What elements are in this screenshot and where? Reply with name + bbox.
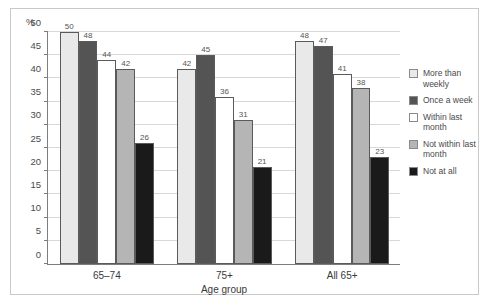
chart-legend: More than weeklyOnce a weekWithin last m… (409, 68, 481, 182)
bar[interactable]: 23 (370, 157, 389, 264)
bar-value-label: 36 (220, 88, 229, 96)
bar-value-label: 38 (357, 79, 366, 87)
bar-value-label: 48 (84, 32, 93, 40)
y-tick-label: 0 (36, 250, 41, 260)
y-tick-label: 20 (30, 157, 41, 167)
bar-slot: 45 (196, 32, 215, 264)
y-tick-label: 45 (30, 41, 41, 51)
bar-slot: 44 (97, 32, 116, 264)
bar-value-label: 50 (65, 23, 74, 31)
bar[interactable]: 48 (79, 41, 98, 264)
x-tick-label: 75+ (216, 271, 233, 281)
bar-value-label: 44 (102, 51, 111, 59)
bar[interactable]: 42 (116, 69, 135, 264)
legend-swatch (409, 113, 418, 122)
legend-swatch (409, 96, 418, 105)
bar-slot: 48 (79, 32, 98, 264)
bar-slot: 42 (116, 32, 135, 264)
bar-value-label: 42 (182, 60, 191, 68)
legend-swatch (409, 167, 418, 176)
y-tick-label: 50 (30, 18, 41, 28)
bar-group: 504844422665–74 (48, 32, 166, 264)
y-tick-label: 30 (30, 111, 41, 121)
bar[interactable]: 44 (97, 60, 116, 264)
y-tick-label: 40 (30, 64, 41, 74)
y-tick-label: 25 (30, 134, 41, 144)
legend-item[interactable]: Not within last month (409, 139, 481, 160)
bar-slot: 47 (314, 32, 333, 264)
bar-slot: 21 (253, 32, 272, 264)
bar[interactable]: 45 (196, 55, 215, 264)
legend-label: Within last month (423, 112, 481, 133)
legend-item[interactable]: Within last month (409, 112, 481, 133)
x-axis-title: Age group (201, 285, 247, 295)
legend-item[interactable]: Once a week (409, 95, 481, 106)
x-tick-label: All 65+ (327, 271, 358, 281)
bar-value-label: 42 (121, 60, 130, 68)
bar[interactable]: 47 (314, 46, 333, 264)
legend-label: Not within last month (423, 139, 481, 160)
bar-value-label: 48 (300, 32, 309, 40)
bar[interactable]: 42 (177, 69, 196, 264)
bar-slot: 50 (60, 32, 79, 264)
bar-value-label: 26 (140, 134, 149, 142)
plot-area: 05101520253035404550 504844422665–744245… (47, 32, 400, 265)
bar-value-label: 21 (258, 158, 267, 166)
bar-group: 424536312175+ (166, 32, 284, 264)
bar[interactable]: 50 (60, 32, 79, 264)
bar-value-label: 23 (375, 148, 384, 156)
bar-slot: 38 (352, 32, 371, 264)
legend-label: More than weekly (423, 68, 481, 89)
bar[interactable]: 48 (295, 41, 314, 264)
legend-label: Not at all (423, 166, 457, 177)
bar-value-label: 45 (201, 46, 210, 54)
bar[interactable]: 26 (135, 143, 154, 264)
bar-value-label: 47 (319, 37, 328, 45)
x-tick-label: 65–74 (93, 271, 121, 281)
y-tick-label: 35 (30, 87, 41, 97)
bar[interactable]: 21 (253, 167, 272, 264)
y-tick-label: 5 (36, 227, 41, 237)
bar-slot: 41 (333, 32, 352, 264)
bar-value-label: 41 (338, 65, 347, 73)
bar[interactable]: 41 (333, 74, 352, 264)
chart-figure: % 05101520253035404550 504844422665–7442… (0, 0, 490, 305)
legend-item[interactable]: Not at all (409, 166, 481, 177)
legend-item[interactable]: More than weekly (409, 68, 481, 89)
y-tick-label: 15 (30, 180, 41, 190)
legend-swatch (409, 140, 418, 149)
y-tick-label: 10 (30, 203, 41, 213)
bar[interactable]: 31 (234, 120, 253, 264)
bar-slot: 36 (215, 32, 234, 264)
bar-slot: 26 (135, 32, 154, 264)
legend-swatch (409, 69, 418, 78)
bar-slot: 31 (234, 32, 253, 264)
bar-slot: 48 (295, 32, 314, 264)
bar-slot: 23 (370, 32, 389, 264)
bar-value-label: 31 (239, 111, 248, 119)
bar-slot: 42 (177, 32, 196, 264)
legend-label: Once a week (423, 95, 473, 106)
bar[interactable]: 38 (352, 88, 371, 264)
bar-group: 4847413823All 65+ (283, 32, 401, 264)
bar[interactable]: 36 (215, 97, 234, 264)
